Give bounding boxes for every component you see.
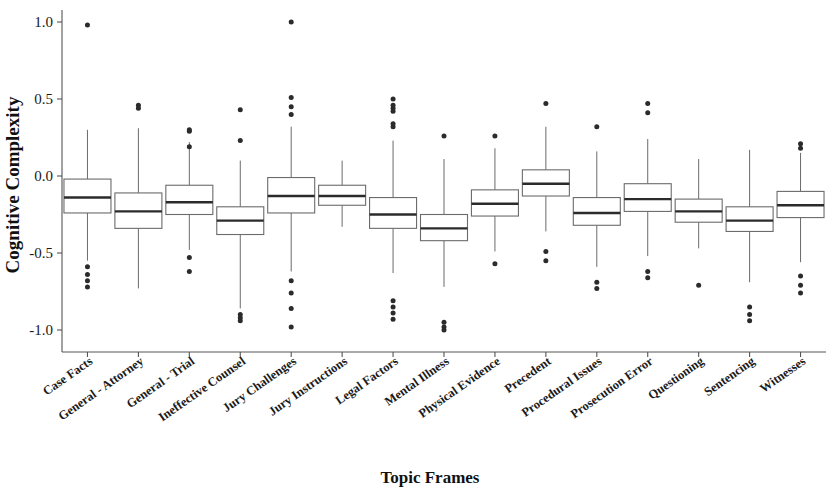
- y-tick-label: 0.0: [34, 168, 53, 184]
- outlier-point: [747, 304, 752, 309]
- outlier-point: [85, 264, 90, 269]
- outlier-point: [594, 280, 599, 285]
- box-group: [319, 161, 366, 227]
- y-tick-label: 0.5: [34, 91, 53, 107]
- y-axis-title: Cognitive Complexity: [2, 96, 23, 273]
- outlier-point: [391, 124, 396, 129]
- boxplot-figure: 1.00.50.0-0.5-1.0 Case FactsGeneral - At…: [0, 0, 833, 491]
- outlier-point: [442, 328, 447, 333]
- outlier-point: [289, 324, 294, 329]
- outlier-point: [391, 298, 396, 303]
- outlier-point: [594, 124, 599, 129]
- outlier-point: [645, 275, 650, 280]
- x-tick-label: Sentencing: [701, 354, 757, 399]
- box-iqr: [370, 198, 417, 229]
- outlier-point: [798, 274, 803, 279]
- outlier-point: [696, 283, 701, 288]
- x-tick-label: Questioning: [645, 354, 707, 403]
- box-group: [522, 101, 569, 263]
- outlier-point: [645, 101, 650, 106]
- box-iqr: [166, 185, 213, 214]
- outlier-point: [289, 112, 294, 117]
- box-group: [268, 20, 315, 330]
- outlier-point: [85, 23, 90, 28]
- box-group: [573, 124, 620, 291]
- box-iqr: [726, 207, 773, 232]
- outlier-point: [187, 255, 192, 260]
- outlier-point: [85, 278, 90, 283]
- y-tick-label: -0.5: [29, 245, 53, 261]
- outlier-point: [187, 129, 192, 134]
- outlier-point: [391, 311, 396, 316]
- outlier-point: [289, 95, 294, 100]
- outlier-point: [289, 291, 294, 296]
- box-iqr: [64, 179, 111, 213]
- outlier-point: [645, 110, 650, 115]
- box-series: [64, 20, 824, 333]
- outlier-point: [187, 144, 192, 149]
- box-group: [115, 103, 162, 289]
- outlier-point: [543, 258, 548, 263]
- outlier-point: [442, 320, 447, 325]
- x-tick-label: General - Attorney: [56, 354, 147, 424]
- box-group: [166, 127, 213, 274]
- x-tick-label: Ineffective Counsel: [156, 354, 248, 425]
- x-axis-title: Topic Frames: [380, 468, 479, 487]
- outlier-point: [391, 304, 396, 309]
- outlier-point: [289, 306, 294, 311]
- x-axis-ticks: Case FactsGeneral - AttorneyGeneral - Tr…: [40, 352, 808, 424]
- outlier-point: [238, 138, 243, 143]
- box-group: [421, 133, 468, 332]
- y-axis-ticks: 1.00.50.0-0.5-1.0: [29, 14, 62, 338]
- box-group: [777, 141, 824, 295]
- outlier-point: [747, 312, 752, 317]
- outlier-point: [543, 249, 548, 254]
- outlier-point: [747, 318, 752, 323]
- outlier-point: [442, 133, 447, 138]
- outlier-point: [798, 291, 803, 296]
- outlier-point: [798, 141, 803, 146]
- outlier-point: [594, 286, 599, 291]
- box-group: [624, 101, 671, 280]
- outlier-point: [492, 133, 497, 138]
- outlier-point: [391, 109, 396, 114]
- boxplot-svg: 1.00.50.0-0.5-1.0 Case FactsGeneral - At…: [0, 0, 833, 491]
- box-iqr: [624, 184, 671, 212]
- outlier-point: [289, 20, 294, 25]
- box-group: [217, 107, 264, 323]
- outlier-point: [391, 317, 396, 322]
- outlier-point: [187, 269, 192, 274]
- outlier-point: [492, 261, 497, 266]
- outlier-point: [391, 97, 396, 102]
- outlier-point: [136, 106, 141, 111]
- box-group: [471, 133, 518, 266]
- box-group: [675, 159, 722, 288]
- outlier-point: [85, 272, 90, 277]
- box-iqr: [573, 198, 620, 226]
- y-tick-label: 1.0: [34, 14, 53, 30]
- outlier-point: [289, 278, 294, 283]
- x-tick-label: Witnesses: [757, 354, 808, 396]
- outlier-point: [289, 104, 294, 109]
- y-tick-label: -1.0: [29, 322, 53, 338]
- box-group: [726, 150, 773, 323]
- outlier-point: [85, 284, 90, 289]
- box-group: [64, 23, 111, 290]
- outlier-point: [798, 146, 803, 151]
- outlier-point: [238, 318, 243, 323]
- outlier-point: [238, 107, 243, 112]
- box-group: [370, 97, 417, 322]
- outlier-point: [543, 101, 548, 106]
- outlier-point: [798, 283, 803, 288]
- outlier-point: [645, 269, 650, 274]
